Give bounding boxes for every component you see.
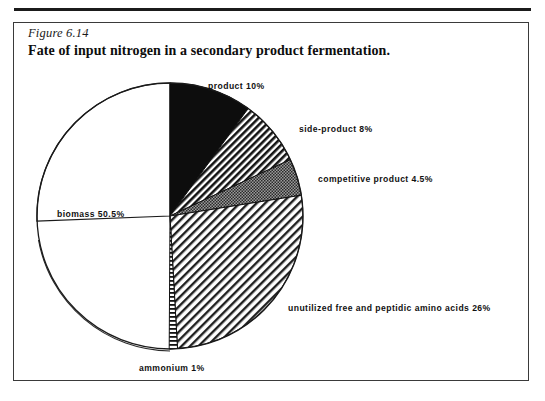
- figure-root: Figure 6.14 Fate of input nitrogen in a …: [0, 0, 545, 401]
- pie-label-side-product: side-product 8%: [299, 124, 373, 135]
- pie-label-biomass: biomass 50.5%: [57, 209, 124, 220]
- pie-slice-biomass[interactable]: [37, 83, 170, 221]
- pie-chart: product 10% side-product 8% competitive …: [0, 0, 545, 401]
- pie-label-competitive-product: competitive product 4.5%: [318, 174, 433, 185]
- pie-shadow-arc: [39, 240, 171, 351]
- pie-label-product: product 10%: [208, 81, 265, 92]
- pie-label-ammonium: ammonium 1%: [139, 363, 205, 374]
- pie-chart-svg: [0, 0, 545, 401]
- pie-slice-unutilized-amino-acids[interactable]: [170, 195, 303, 348]
- pie-label-unutilized-amino-acids: unutilized free and peptidic amino acids…: [288, 303, 491, 314]
